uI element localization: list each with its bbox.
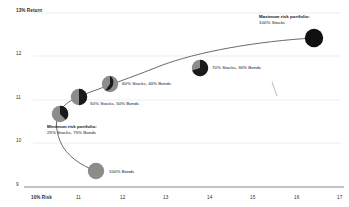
chart-canvas <box>0 0 349 207</box>
annotation-fifty-fifty-detail: 50% Stocks, 50% Bonds <box>90 101 139 107</box>
y-axis-tick-9: 9 <box>16 183 19 188</box>
annotation-sixty-forty-detail: 60% Stocks, 40% Bonds <box>122 81 171 87</box>
annotation-all-bonds: 100% Bonds <box>109 169 134 175</box>
x-axis-tick-12: 12 <box>120 196 125 201</box>
x-axis-tick-14: 14 <box>207 196 212 201</box>
x-axis-tick-13: 13 <box>163 196 168 201</box>
annotation-max-risk: Maximum risk portfolio: 100% Stocks <box>259 14 310 27</box>
annotation-min-risk: Minimum risk portfolio: 25% Stocks, 75% … <box>47 124 97 137</box>
x-axis-tick-15: 15 <box>250 196 255 201</box>
y-axis-tick-11: 11 <box>16 96 21 101</box>
annotation-fifty-fifty: 50% Stocks, 50% Bonds <box>90 101 139 107</box>
annotation-seventy-thirty: 70% Stocks, 30% Bonds <box>212 65 261 71</box>
annotation-all-bonds-detail: 100% Bonds <box>109 169 134 175</box>
marker-min-risk <box>52 106 68 122</box>
x-axis-tick-10: 10% Risk <box>31 196 52 201</box>
x-axis-tick-11: 11 <box>76 196 81 201</box>
y-axis-tick-12: 12 <box>16 52 21 57</box>
efficient-frontier-chart: 13% Return 12 11 10 9 10% Risk 11 12 13 … <box>0 0 349 207</box>
annotation-min-risk-detail: 25% Stocks, 75% Bonds <box>47 130 97 136</box>
x-axis-tick-16: 16 <box>294 196 299 201</box>
y-axis-tick-10: 10 <box>16 139 21 144</box>
y-axis-tick-13: 13% Return <box>16 9 42 14</box>
x-axis-tick-17: 17 <box>337 196 342 201</box>
stray-tick-mark <box>272 82 277 96</box>
marker-sixty-forty <box>102 76 118 92</box>
marker-fifty-fifty <box>71 89 87 105</box>
marker-all-bonds <box>88 163 104 179</box>
annotation-seventy-thirty-detail: 70% Stocks, 30% Bonds <box>212 65 261 71</box>
annotation-max-risk-detail: 100% Stocks <box>259 20 310 26</box>
marker-max-risk <box>305 29 323 47</box>
marker-seventy-thirty <box>192 60 208 76</box>
annotation-sixty-forty: 60% Stocks, 40% Bonds <box>122 81 171 87</box>
